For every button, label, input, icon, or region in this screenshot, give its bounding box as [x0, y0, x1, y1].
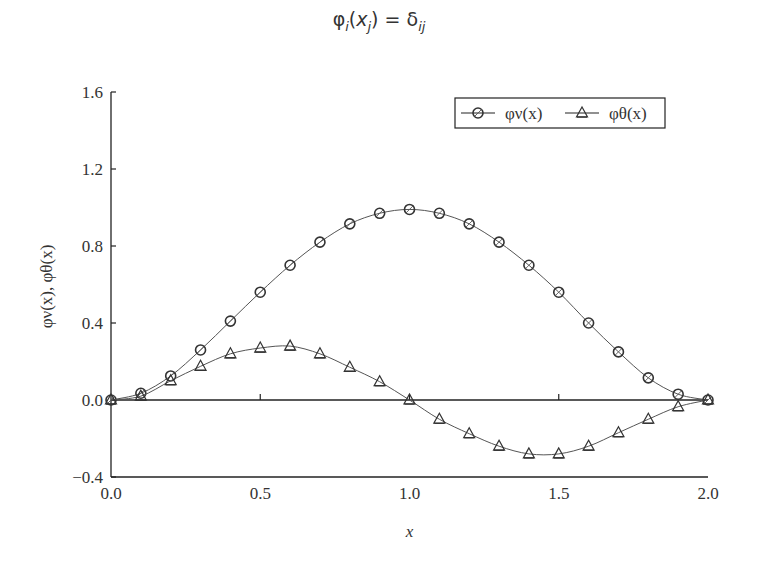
- series-layer: [106, 204, 714, 457]
- chart-area: −0.40.00.40.81.21.60.00.51.01.52.0xφν(x)…: [0, 0, 758, 564]
- marker-line: [257, 289, 264, 296]
- y-axis-title: φν(x), φθ(x): [37, 245, 56, 329]
- series-curve: [111, 209, 708, 400]
- triangle-marker: [195, 360, 206, 370]
- legend-label-2: φθ(x): [609, 104, 647, 123]
- x-axis-title: x: [405, 522, 414, 541]
- triangle-marker: [613, 427, 624, 437]
- x-tick-label: 1.5: [548, 484, 569, 503]
- marker-line: [346, 220, 353, 227]
- marker-line: [227, 318, 234, 325]
- y-tick-label: 0.4: [82, 314, 104, 333]
- triangle-marker: [643, 413, 654, 423]
- x-tick-label: 0.0: [100, 484, 121, 503]
- marker-line: [675, 391, 682, 398]
- marker-line: [645, 374, 652, 381]
- x-tick-label: 1.0: [399, 484, 420, 503]
- marker-line: [197, 346, 204, 353]
- legend-label-1: φν(x): [505, 104, 542, 123]
- series-1: [106, 204, 713, 405]
- marker-line: [436, 210, 443, 217]
- marker-line: [466, 220, 473, 227]
- y-tick-label: 1.2: [82, 160, 103, 179]
- axes: −0.40.00.40.81.21.60.00.51.01.52.0xφν(x)…: [37, 83, 719, 541]
- y-tick-label: 0.8: [82, 237, 103, 256]
- marker-line: [287, 262, 294, 269]
- triangle-marker: [285, 340, 296, 350]
- marker-line: [316, 239, 323, 246]
- marker-line: [496, 239, 503, 246]
- triangle-marker: [464, 428, 475, 438]
- triangle-marker: [344, 361, 355, 371]
- legend: φν(x)φθ(x): [455, 98, 665, 128]
- y-tick-label: 1.6: [82, 83, 103, 102]
- x-tick-label: 0.5: [250, 484, 271, 503]
- marker-line: [376, 210, 383, 217]
- y-tick-label: −0.4: [72, 468, 103, 487]
- y-tick-label: 0.0: [82, 391, 103, 410]
- x-tick-label: 2.0: [697, 484, 718, 503]
